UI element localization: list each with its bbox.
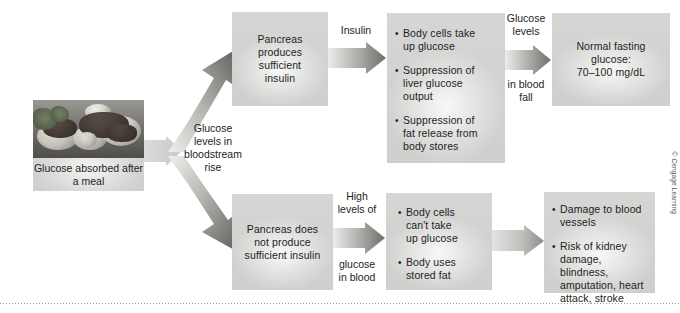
insulin-effects-list: Body cells take up glucose Suppression o… bbox=[395, 27, 478, 153]
list-item: Suppression of fat release from body sto… bbox=[395, 114, 478, 153]
bottom-divider bbox=[0, 303, 680, 304]
list-item: Body uses stored fat bbox=[398, 256, 458, 282]
list-item: Suppression of liver glucose output bbox=[395, 64, 478, 103]
glucose-levels-label: Glucose levels bbox=[502, 12, 550, 38]
complications-box: Damage to blood vessels Risk of kidney d… bbox=[544, 192, 655, 293]
photo-caption: Glucose absorbed after a meal bbox=[33, 158, 144, 191]
insulin-effects-box: Body cells take up glucose Suppression o… bbox=[387, 13, 505, 163]
high-levels-label: High levels of bbox=[330, 190, 384, 216]
glucose-levels-fall-arrow bbox=[505, 45, 553, 77]
normal-fasting-glucose-text: Normal fasting glucose: 70–100 mg/dL bbox=[576, 40, 645, 79]
list-item: Damage to blood vessels bbox=[552, 203, 651, 229]
list-item: Body cells take up glucose bbox=[395, 27, 478, 53]
insulin-arrow bbox=[328, 42, 388, 76]
high-glucose-arrow bbox=[333, 222, 387, 256]
pancreas-insufficient-insulin-box: Pancreas does not produce sufficient ins… bbox=[232, 194, 333, 290]
insulin-label: Insulin bbox=[330, 24, 382, 37]
pancreas-insufficient-insulin-text: Pancreas does not produce sufficient ins… bbox=[245, 223, 321, 262]
glucose-rise-label: Glucose levels in bloodstream rise bbox=[184, 122, 242, 174]
glucose-absorbed-photo-box: Glucose absorbed after a meal bbox=[33, 100, 144, 191]
figure-canvas: Glucose absorbed after a meal Glucose le… bbox=[0, 0, 680, 313]
pancreas-produces-insulin-text: Pancreas produces sufficient insulin bbox=[257, 33, 302, 85]
copyright-credit: © Cengage Learning bbox=[671, 152, 678, 214]
complications-list: Damage to blood vessels Risk of kidney d… bbox=[552, 203, 651, 305]
plate-of-food-photo bbox=[33, 100, 144, 158]
cells-cannot-take-glucose-box: Body cells can't take up glucose Body us… bbox=[386, 193, 492, 290]
list-item: Risk of kidney damage, blindness, amputa… bbox=[552, 240, 651, 305]
normal-fasting-glucose-box: Normal fasting glucose: 70–100 mg/dL bbox=[552, 13, 670, 106]
outcome-arrow bbox=[492, 225, 546, 257]
list-item: Body cells can't take up glucose bbox=[398, 206, 458, 245]
cells-cannot-take-glucose-list: Body cells can't take up glucose Body us… bbox=[398, 206, 458, 282]
pancreas-produces-insulin-box: Pancreas produces sufficient insulin bbox=[232, 12, 328, 106]
glucose-in-blood-label: glucose in blood bbox=[330, 258, 384, 284]
in-blood-fall-label: in blood fall bbox=[500, 78, 552, 104]
